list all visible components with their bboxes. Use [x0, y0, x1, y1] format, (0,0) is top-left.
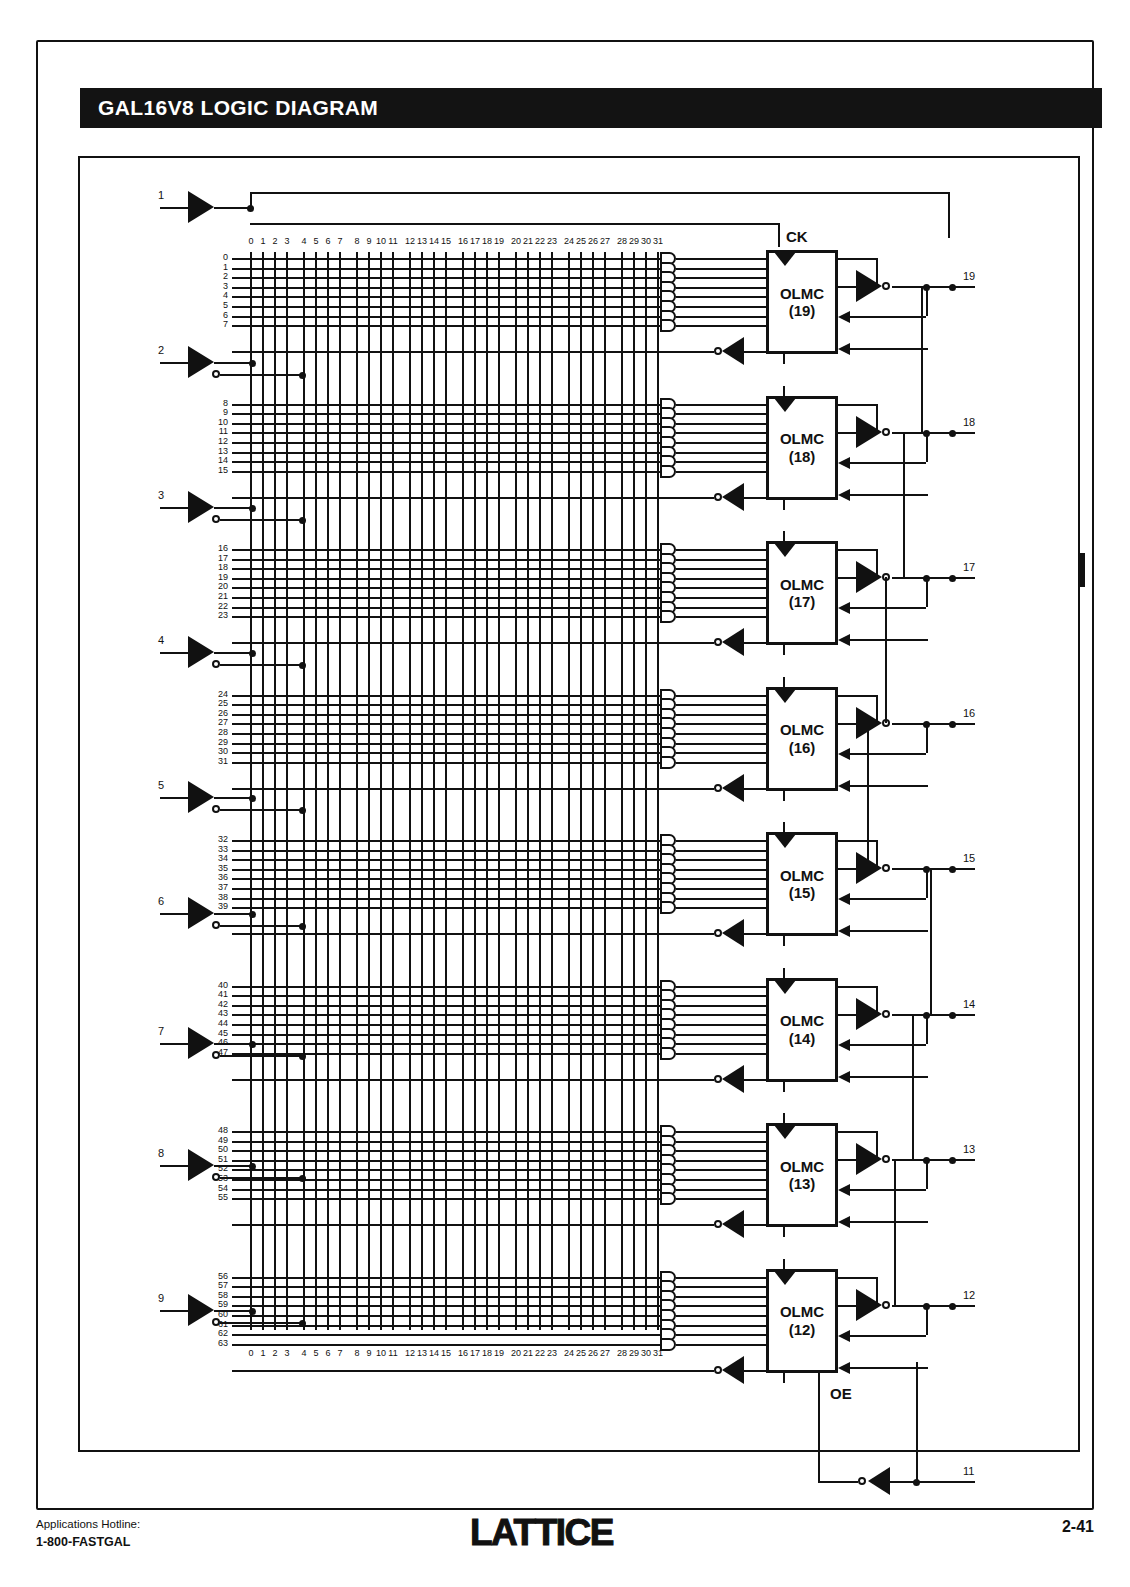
and-output-7 [676, 325, 766, 327]
column-number-top-3: 3 [281, 236, 293, 246]
input-true-wire-8 [214, 1165, 254, 1167]
input-comp-wire-6 [220, 925, 304, 927]
output-enable-drop-12 [876, 1277, 878, 1305]
input-comp-wire-5 [220, 809, 304, 811]
product-term-row-9 [232, 413, 660, 415]
and-output-32 [676, 840, 766, 842]
and-output-13 [676, 452, 766, 454]
and-gate-7 [660, 319, 676, 332]
output-buffer-bubble-19 [882, 282, 890, 290]
product-term-row-54 [232, 1189, 660, 1191]
row-number-34: 34 [210, 853, 228, 863]
and-output-33 [676, 850, 766, 852]
column-number-bottom-20: 20 [510, 1348, 522, 1358]
pin-feedback-riser-14 [912, 1014, 914, 1160]
row-number-21: 21 [210, 591, 228, 601]
and-output-39 [676, 907, 766, 909]
row-number-49: 49 [210, 1135, 228, 1145]
olmc-chain-down-12 [783, 1373, 785, 1383]
product-term-row-45 [232, 1034, 660, 1036]
feedback-inverter-13 [722, 1210, 744, 1238]
and-output-53 [676, 1179, 766, 1181]
feedback-inverter-14 [722, 1065, 744, 1093]
column-number-bottom-14: 14 [428, 1348, 440, 1358]
row-number-37: 37 [210, 882, 228, 892]
output-enable-drop-16 [876, 695, 878, 723]
output-enable-drop-17 [876, 549, 878, 577]
and-output-30 [676, 752, 766, 754]
input-pin-number-6: 6 [158, 895, 164, 907]
and-gate-39 [660, 901, 676, 914]
adjacent-feedback-arrow-16 [838, 780, 850, 792]
clock-label: CK [786, 228, 808, 245]
pin-tap-dot-15 [949, 866, 956, 873]
output-wire-15 [892, 868, 952, 870]
feedback-arrow-16 [838, 748, 850, 760]
and-output-29 [676, 743, 766, 745]
pin-feedback-riser-15 [930, 868, 932, 1014]
product-term-row-25 [232, 704, 660, 706]
product-term-row-33 [232, 850, 660, 852]
product-term-row-16 [232, 549, 660, 551]
olmc-pin-label: (17) [789, 593, 816, 610]
input-buffer-1 [188, 191, 214, 223]
and-output-6 [676, 316, 766, 318]
adjacent-feedback-wire-13 [850, 1221, 928, 1223]
olmc-pin-label: (14) [789, 1030, 816, 1047]
product-term-row-19 [232, 578, 660, 580]
row-number-63: 63 [210, 1338, 228, 1348]
feedback-inverter-input-19 [744, 351, 766, 353]
page-title: GAL16V8 LOGIC DIAGRAM [98, 96, 378, 120]
column-number-bottom-17: 17 [469, 1348, 481, 1358]
column-number-bottom-6: 6 [322, 1348, 334, 1358]
row-number-25: 25 [210, 698, 228, 708]
row-number-27: 27 [210, 717, 228, 727]
input-comp-wire-9 [220, 1322, 304, 1324]
row-number-48: 48 [210, 1125, 228, 1135]
product-term-row-4 [232, 296, 660, 298]
olmc-chain-down-15 [783, 936, 785, 946]
feedback-inverter-input-16 [744, 788, 766, 790]
input-buffer-bubble-4 [212, 660, 220, 668]
input-true-wire-5 [214, 797, 254, 799]
input-true-dot-5 [249, 795, 256, 802]
clock-input-triangle-12 [774, 1271, 796, 1285]
feedback-drop-19 [926, 286, 928, 316]
input-true-dot-9 [249, 1308, 256, 1315]
hotline-label: Applications Hotline: [36, 1516, 140, 1533]
row-number-20: 20 [210, 581, 228, 591]
input-pin-wire-8 [160, 1165, 188, 1167]
input-buffer-8 [188, 1149, 214, 1181]
output-enable-drop-13 [876, 1131, 878, 1159]
feedback-line-18 [232, 497, 714, 499]
row-number-4: 4 [210, 290, 228, 300]
product-term-row-11 [232, 432, 660, 434]
product-term-row-42 [232, 1005, 660, 1007]
column-number-bottom-30: 30 [640, 1348, 652, 1358]
input-pin-number-7: 7 [158, 1025, 164, 1037]
product-term-row-26 [232, 714, 660, 716]
row-number-8: 8 [210, 398, 228, 408]
olmc-chain-down-19 [783, 354, 785, 364]
output-pin-number-14: 14 [963, 998, 975, 1010]
column-number-top-29: 29 [628, 236, 640, 246]
row-number-43: 43 [210, 1008, 228, 1018]
product-term-row-17 [232, 559, 660, 561]
input-true-dot-2 [249, 360, 256, 367]
and-output-46 [676, 1043, 766, 1045]
row-number-35: 35 [210, 863, 228, 873]
pin-tap-dot-18 [949, 430, 956, 437]
column-number-bottom-3: 3 [281, 1348, 293, 1358]
output-buffer-19 [856, 270, 882, 302]
oe-label: OE [830, 1385, 852, 1402]
and-output-41 [676, 995, 766, 997]
column-number-bottom-25: 25 [575, 1348, 587, 1358]
and-output-14 [676, 461, 766, 463]
input-true-dot-7 [249, 1041, 256, 1048]
clock-input-triangle-13 [774, 1125, 796, 1139]
column-number-bottom-8: 8 [351, 1348, 363, 1358]
hotline-number: 1-800-FASTGAL [36, 1533, 140, 1551]
feedback-inverter-input-13 [744, 1224, 766, 1226]
feedback-line-13 [232, 1224, 714, 1226]
row-number-0: 0 [210, 252, 228, 262]
